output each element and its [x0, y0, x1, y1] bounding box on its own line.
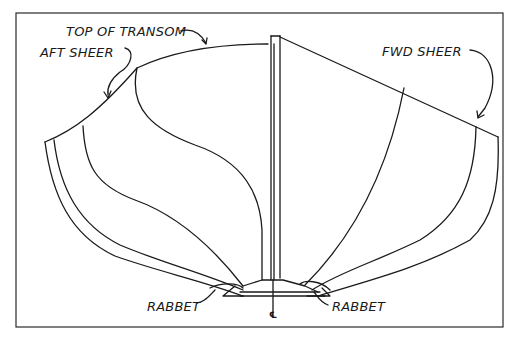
aft-outer-hull-line [45, 142, 243, 296]
label-rabbet-left: RABBET [147, 299, 201, 314]
fwd-hull-line-2 [312, 127, 476, 290]
fwd-half-stations [280, 37, 498, 296]
label-aft-sheer: AFT SHEER [39, 45, 114, 60]
centerline-symbol: ℄ [269, 310, 277, 320]
label-fwd-sheer: FWD SHEER [382, 44, 462, 59]
aft-hull-line-4 [135, 68, 262, 280]
aft-hull-line-3 [83, 126, 243, 286]
fwd-outer-hull-line [318, 137, 498, 296]
label-top-of-transom: TOP OF TRANSOM [66, 24, 186, 39]
centerline-stem: ℄ [269, 36, 280, 320]
keel-base [210, 280, 330, 296]
leader-fwd-sheer [470, 50, 493, 117]
label-rabbet-right: RABBET [332, 299, 386, 314]
aft-half-stations [45, 44, 268, 296]
body-plan-diagram: ℄ TOP OF TRANSOM AFT SHEER [0, 0, 520, 340]
annotations: TOP OF TRANSOM AFT SHEER FWD SHEER RABBE… [39, 24, 493, 314]
diagram-frame [16, 13, 503, 327]
fwd-hull-line-3 [305, 88, 404, 285]
